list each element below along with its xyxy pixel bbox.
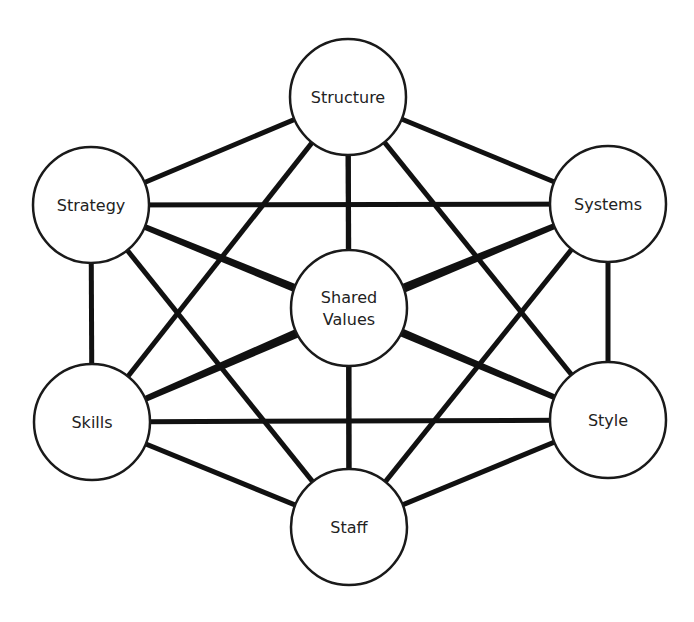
seven-s-diagram: StructureStrategySystemsSharedValuesSkil… xyxy=(0,0,694,622)
node-skills: Skills xyxy=(34,364,150,480)
node-label: Style xyxy=(588,411,628,430)
node-label: Structure xyxy=(311,88,385,107)
node-label: Shared xyxy=(321,288,377,307)
node-label: Skills xyxy=(71,413,112,432)
node-style: Style xyxy=(550,362,666,478)
node-systems: Systems xyxy=(550,146,666,262)
node-structure: Structure xyxy=(290,39,406,155)
edge-strategy-systems xyxy=(91,204,608,205)
edge-skills-style xyxy=(92,420,608,422)
node-label: Strategy xyxy=(57,196,126,215)
node-circle xyxy=(291,250,407,366)
node-label: Values xyxy=(323,310,375,329)
node-staff: Staff xyxy=(291,469,407,585)
node-label: Systems xyxy=(574,195,642,214)
node-strategy: Strategy xyxy=(33,147,149,263)
node-shared-values: SharedValues xyxy=(291,250,407,366)
nodes: StructureStrategySystemsSharedValuesSkil… xyxy=(33,39,666,585)
node-label: Staff xyxy=(330,518,368,537)
